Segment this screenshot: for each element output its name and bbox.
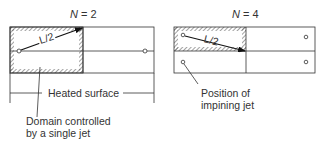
- jet-icon: [143, 49, 147, 53]
- jet-icon: [181, 33, 185, 37]
- domain-leader-line: [37, 67, 40, 117]
- jet-icon: [304, 35, 308, 39]
- jet-icon: [17, 49, 21, 53]
- right-panel: [174, 27, 315, 84]
- domain-callout-line2: by a single jet: [26, 127, 90, 139]
- jet-callout-line1: Position of: [201, 87, 250, 99]
- jet-leader-line: [184, 64, 198, 84]
- domain-callout-line1: Domain controlled: [26, 115, 111, 127]
- jet-icon: [304, 60, 308, 64]
- left-title: N = 2: [70, 8, 97, 20]
- jet-callout-line2: impining jet: [201, 99, 254, 111]
- dimension-label: Heated surface: [48, 87, 119, 99]
- jet-icon: [181, 60, 185, 64]
- right-title: N = 4: [232, 8, 259, 20]
- left-panel: [10, 27, 154, 117]
